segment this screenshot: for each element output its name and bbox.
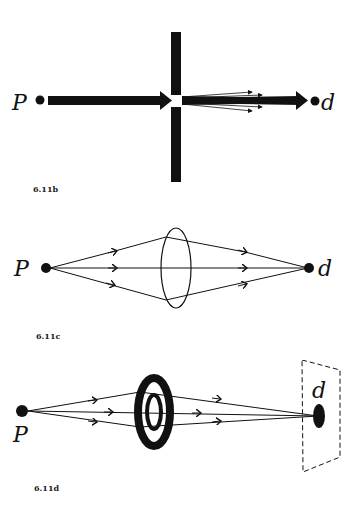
- figure-label-6-11c: 6.11c: [36, 331, 60, 341]
- figure-label-6-11b: 6.11b: [33, 184, 58, 194]
- figure-6-11b: P d: [0, 0, 358, 200]
- source-point-p: P: [11, 90, 45, 115]
- thick-beam-arrow-in: [48, 91, 172, 110]
- source-point-p: P: [12, 405, 29, 447]
- figure-label-6-11d: 6.11d: [34, 483, 59, 493]
- zone-plate: [138, 378, 170, 446]
- source-label-p: P: [11, 90, 28, 115]
- barrier-with-aperture: [171, 32, 181, 182]
- diffracted-beam-out: [182, 91, 308, 111]
- ray-paths: [50, 237, 308, 300]
- source-point-p: P: [13, 256, 51, 281]
- source-label-p: P: [12, 422, 29, 447]
- detector-label-d: d: [321, 90, 335, 115]
- detector-spot-d: d: [312, 378, 326, 428]
- detector-point-d: d: [311, 90, 336, 115]
- source-label-p: P: [13, 256, 30, 281]
- detector-label-d: d: [318, 256, 332, 281]
- detector-label-d: d: [312, 378, 326, 403]
- detector-point-d: d: [304, 256, 332, 281]
